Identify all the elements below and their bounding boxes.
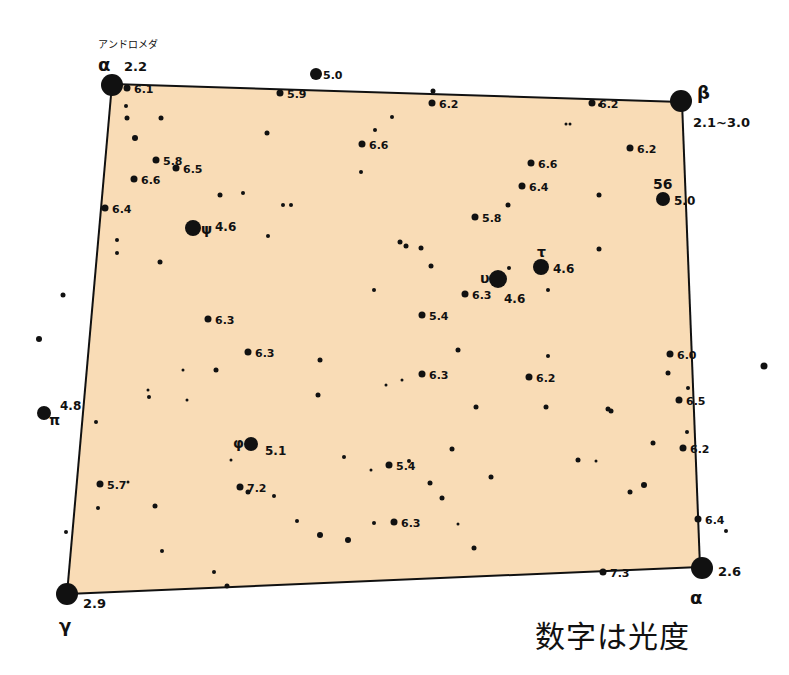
- star: [237, 484, 244, 491]
- star-dot: [419, 246, 424, 251]
- star-dot: [64, 530, 68, 534]
- star-dot: [686, 386, 690, 390]
- star: [680, 445, 687, 452]
- star-dot: [440, 496, 445, 501]
- star: [124, 85, 131, 92]
- magnitude-label: 6.3: [429, 369, 449, 382]
- greek-letter-label: υ: [480, 270, 489, 286]
- star: [472, 214, 479, 221]
- star-dot: [272, 494, 276, 498]
- star: [526, 374, 533, 381]
- star: [391, 519, 398, 526]
- greek-letter-label: φ: [233, 435, 244, 451]
- star-dot: [359, 170, 363, 174]
- named-star: [533, 259, 549, 275]
- greek-letter-label: α: [98, 54, 110, 75]
- magnitude-label: 6.6: [141, 174, 161, 187]
- star-dot: [115, 251, 119, 255]
- magnitude-label: 2.6: [718, 564, 741, 579]
- star: [667, 351, 674, 358]
- star-dot: [569, 123, 572, 126]
- star-dot: [182, 369, 185, 372]
- magnitude-label: 6.5: [686, 395, 706, 408]
- star-dot: [160, 549, 164, 553]
- star: [429, 100, 436, 107]
- magnitude-label: 6.2: [690, 443, 710, 456]
- star: [102, 205, 109, 212]
- star-chart: 6.15.05.96.26.26.66.25.86.56.66.66.46.45…: [0, 0, 789, 675]
- star: [528, 160, 535, 167]
- star-dot: [212, 570, 216, 574]
- magnitude-label: 5.0: [674, 194, 695, 208]
- star-dot: [225, 584, 230, 589]
- magnitude-label: 5.1: [265, 444, 286, 458]
- greek-letter-label: β: [697, 82, 710, 103]
- magnitude-label: 6.3: [472, 289, 492, 302]
- star-dot: [472, 546, 477, 551]
- magnitude-label: 2.9: [83, 596, 106, 611]
- magnitude-label: 6.3: [215, 314, 235, 327]
- star-dot: [266, 234, 270, 238]
- star: [695, 516, 702, 523]
- magnitude-label: 6.2: [599, 98, 619, 111]
- star-dot: [641, 482, 647, 488]
- star-dot: [456, 348, 461, 353]
- greek-letter-label: ψ: [201, 221, 212, 237]
- star: [97, 481, 104, 488]
- magnitude-label: 6.4: [705, 514, 725, 527]
- star-dot: [96, 506, 100, 510]
- magnitude-label: 6.6: [538, 158, 558, 171]
- magnitude-label: 5.8: [482, 212, 502, 225]
- star-dot: [132, 135, 138, 141]
- star-dot: [295, 519, 299, 523]
- star-dot: [214, 368, 219, 373]
- star-dot: [372, 521, 376, 525]
- star-dot: [565, 123, 568, 126]
- star-dot: [115, 238, 119, 242]
- star-dot: [401, 379, 404, 382]
- star: [627, 145, 634, 152]
- greek-letter-label: π: [49, 412, 60, 428]
- star-dot: [370, 469, 373, 472]
- star-dot: [147, 389, 150, 392]
- star: [462, 291, 469, 298]
- star-dot: [404, 244, 409, 249]
- star-dot: [474, 405, 479, 410]
- star-dot: [761, 363, 768, 370]
- star: [310, 68, 322, 80]
- star-dot: [94, 420, 98, 424]
- star-dot: [628, 490, 633, 495]
- magnitude-label: 4.6: [215, 220, 236, 234]
- star-dot: [230, 459, 233, 462]
- magnitude-label: 6.2: [536, 372, 556, 385]
- magnitude-label: 6.3: [401, 517, 421, 530]
- star-dot: [597, 193, 602, 198]
- star-dot: [457, 523, 460, 526]
- great-square-fill: [67, 84, 700, 594]
- star-dot: [124, 104, 128, 108]
- star-dot: [398, 240, 403, 245]
- legend-note: 数字は光度: [535, 612, 690, 656]
- star-dot: [685, 430, 689, 434]
- star-dot: [317, 532, 323, 538]
- corner-star: [101, 74, 123, 96]
- star-dot: [597, 247, 602, 252]
- star-dot: [125, 116, 130, 121]
- magnitude-label: 6.3: [255, 347, 275, 360]
- star: [205, 316, 212, 323]
- magnitude-label: 2.1~3.0: [693, 115, 750, 130]
- named-star: [185, 220, 201, 236]
- star-dot: [546, 354, 550, 358]
- star: [173, 165, 180, 172]
- star-dot: [595, 460, 598, 463]
- magnitude-label: 6.0: [677, 349, 697, 362]
- magnitude-label: 4.6: [504, 292, 525, 306]
- star-dot: [218, 193, 223, 198]
- magnitude-label: 6.2: [637, 143, 657, 156]
- magnitude-label: 5.9: [287, 88, 307, 101]
- star: [245, 349, 252, 356]
- magnitude-label: 5.4: [429, 310, 449, 323]
- magnitude-label: 5.7: [107, 479, 127, 492]
- named-star: [244, 437, 258, 451]
- star-dot: [450, 447, 455, 452]
